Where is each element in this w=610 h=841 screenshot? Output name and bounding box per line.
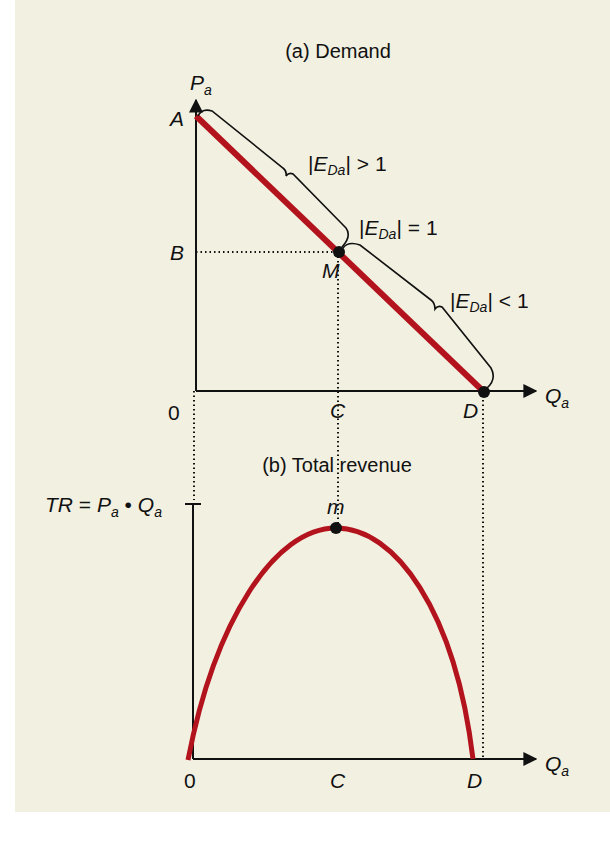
quantity-axis-label: Qa	[545, 384, 569, 411]
quantity-axis-b-label: Qa	[545, 752, 569, 779]
brace-inelastic	[343, 244, 493, 388]
label-origin: 0	[168, 401, 180, 424]
demand-and-revenue-figure: (a) Demand Pa Qa A B M 0 C D |EDa|> 1 |E…	[0, 0, 610, 841]
panel-b-total-revenue: (b) Total revenue TR = Pa • Qa Qa m 0 C …	[45, 450, 569, 792]
label-origin-b: 0	[184, 769, 196, 792]
panel-a-title: (a) Demand	[285, 40, 391, 62]
panel-b-title: (b) Total revenue	[262, 454, 412, 476]
elasticity-label-unit: |EDa|= 1	[359, 216, 438, 242]
label-c-b: C	[330, 769, 346, 792]
label-d: D	[463, 399, 478, 422]
label-a: A	[168, 107, 184, 130]
label-m: M	[322, 259, 340, 282]
label-b: B	[170, 241, 184, 264]
panel-a-demand: (a) Demand Pa Qa A B M 0 C D |EDa|> 1 |E…	[168, 40, 569, 759]
total-revenue-curve	[188, 528, 473, 760]
price-axis-label: Pa	[190, 71, 212, 98]
elasticity-label-inelastic: |EDa|< 1	[450, 289, 529, 315]
label-d-b: D	[467, 769, 482, 792]
brace-elastic	[198, 110, 348, 247]
elasticity-label-elastic: |EDa|> 1	[308, 152, 387, 178]
label-c: C	[330, 399, 346, 422]
point-m-max-revenue	[330, 522, 342, 534]
label-m-lower: m	[327, 495, 345, 518]
revenue-axis-label: TR = Pa • Qa	[45, 493, 162, 520]
